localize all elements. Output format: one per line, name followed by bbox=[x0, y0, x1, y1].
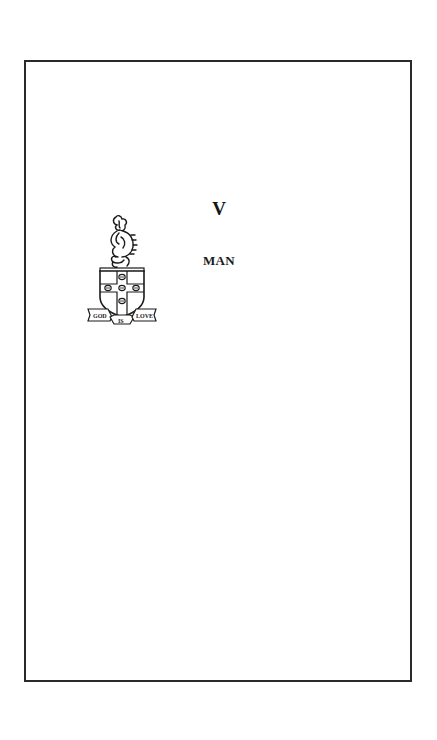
motto-center: IS bbox=[118, 318, 124, 324]
part-numeral: V bbox=[200, 199, 238, 219]
coat-of-arms-icon: GOD IS LOVE bbox=[86, 213, 158, 325]
part-title: MAN bbox=[190, 254, 248, 268]
crest-plume-icon bbox=[111, 216, 137, 268]
motto-right: LOVE bbox=[136, 313, 153, 319]
page-frame bbox=[24, 60, 412, 682]
motto-left: GOD bbox=[93, 313, 107, 319]
